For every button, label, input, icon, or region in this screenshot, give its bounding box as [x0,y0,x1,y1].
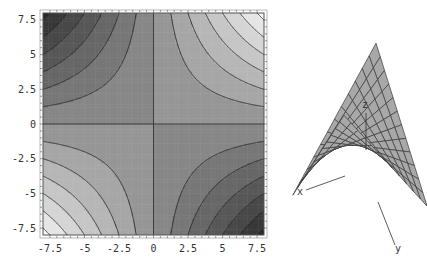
y-axis-line [378,202,395,245]
saddle-surface-plot: xyz [0,0,427,264]
figure: -7.5-5-2.502.557.57.552.50-2.5-5-7.5 xyz [0,0,427,264]
z-axis-label: z [362,99,368,110]
x-axis-line [306,176,345,190]
x-axis-label: x [297,186,303,197]
saddle-mesh [293,43,427,206]
y-axis-label: y [395,243,401,254]
